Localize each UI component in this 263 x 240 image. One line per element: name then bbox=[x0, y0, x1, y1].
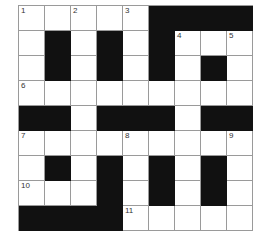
answer-cell[interactable]: 1 bbox=[19, 6, 45, 31]
block-cell bbox=[149, 31, 175, 56]
answer-cell[interactable] bbox=[227, 81, 253, 106]
block-cell bbox=[45, 56, 71, 81]
answer-cell[interactable] bbox=[175, 106, 201, 131]
answer-cell[interactable] bbox=[201, 31, 227, 56]
answer-cell[interactable] bbox=[71, 31, 97, 56]
answer-cell[interactable] bbox=[71, 131, 97, 156]
answer-cell[interactable]: 4 bbox=[175, 31, 201, 56]
answer-cell[interactable] bbox=[45, 181, 71, 206]
block-cell bbox=[201, 181, 227, 206]
answer-cell[interactable] bbox=[175, 56, 201, 81]
clue-number: 3 bbox=[125, 7, 129, 15]
answer-cell[interactable] bbox=[175, 131, 201, 156]
block-cell bbox=[149, 6, 175, 31]
answer-cell[interactable] bbox=[175, 156, 201, 181]
answer-cell[interactable] bbox=[97, 81, 123, 106]
answer-cell[interactable]: 6 bbox=[19, 81, 45, 106]
answer-cell[interactable] bbox=[123, 31, 149, 56]
block-cell bbox=[45, 31, 71, 56]
answer-cell[interactable]: 5 bbox=[227, 31, 253, 56]
answer-cell[interactable]: 2 bbox=[71, 6, 97, 31]
block-cell bbox=[97, 31, 123, 56]
answer-cell[interactable] bbox=[71, 56, 97, 81]
block-cell bbox=[97, 206, 123, 231]
block-cell bbox=[227, 106, 253, 131]
answer-cell[interactable] bbox=[19, 156, 45, 181]
clue-number: 6 bbox=[21, 82, 25, 90]
block-cell bbox=[97, 106, 123, 131]
answer-cell[interactable] bbox=[123, 56, 149, 81]
block-cell bbox=[97, 56, 123, 81]
answer-cell[interactable] bbox=[71, 156, 97, 181]
answer-cell[interactable] bbox=[97, 6, 123, 31]
answer-cell[interactable] bbox=[97, 131, 123, 156]
answer-cell[interactable]: 9 bbox=[227, 131, 253, 156]
answer-cell[interactable] bbox=[45, 81, 71, 106]
answer-cell[interactable] bbox=[19, 56, 45, 81]
answer-cell[interactable] bbox=[149, 206, 175, 231]
answer-cell[interactable]: 8 bbox=[123, 131, 149, 156]
answer-cell[interactable] bbox=[175, 181, 201, 206]
block-cell bbox=[71, 206, 97, 231]
clue-number: 5 bbox=[229, 32, 233, 40]
clue-number: 4 bbox=[177, 32, 181, 40]
answer-cell[interactable] bbox=[201, 131, 227, 156]
answer-cell[interactable] bbox=[45, 6, 71, 31]
block-cell bbox=[227, 6, 253, 31]
block-cell bbox=[123, 106, 149, 131]
answer-cell[interactable] bbox=[71, 106, 97, 131]
answer-cell[interactable] bbox=[19, 31, 45, 56]
clue-number: 11 bbox=[125, 207, 133, 215]
answer-cell[interactable] bbox=[227, 206, 253, 231]
block-cell bbox=[149, 106, 175, 131]
block-cell bbox=[201, 56, 227, 81]
clue-number: 1 bbox=[21, 7, 25, 15]
answer-cell[interactable] bbox=[227, 156, 253, 181]
block-cell bbox=[19, 206, 45, 231]
answer-cell[interactable] bbox=[71, 181, 97, 206]
answer-cell[interactable] bbox=[175, 81, 201, 106]
clue-number: 9 bbox=[229, 132, 233, 140]
crossword-grid: 1234567891011 bbox=[18, 5, 253, 231]
answer-cell[interactable] bbox=[227, 56, 253, 81]
answer-cell[interactable] bbox=[123, 181, 149, 206]
block-cell bbox=[149, 181, 175, 206]
answer-cell[interactable] bbox=[149, 81, 175, 106]
block-cell bbox=[45, 206, 71, 231]
block-cell bbox=[175, 6, 201, 31]
block-cell bbox=[149, 156, 175, 181]
block-cell bbox=[97, 181, 123, 206]
clue-number: 10 bbox=[21, 182, 30, 190]
block-cell bbox=[201, 6, 227, 31]
answer-cell[interactable] bbox=[149, 131, 175, 156]
block-cell bbox=[201, 106, 227, 131]
answer-cell[interactable] bbox=[45, 131, 71, 156]
block-cell bbox=[45, 156, 71, 181]
answer-cell[interactable] bbox=[123, 81, 149, 106]
answer-cell[interactable] bbox=[201, 81, 227, 106]
answer-cell[interactable] bbox=[123, 156, 149, 181]
block-cell bbox=[19, 106, 45, 131]
answer-cell[interactable] bbox=[175, 206, 201, 231]
answer-cell[interactable]: 7 bbox=[19, 131, 45, 156]
answer-cell[interactable] bbox=[227, 181, 253, 206]
answer-cell[interactable]: 3 bbox=[123, 6, 149, 31]
clue-number: 7 bbox=[21, 132, 25, 140]
answer-cell[interactable]: 11 bbox=[123, 206, 149, 231]
block-cell bbox=[149, 56, 175, 81]
clue-number: 2 bbox=[73, 7, 77, 15]
block-cell bbox=[45, 106, 71, 131]
block-cell bbox=[201, 156, 227, 181]
block-cell bbox=[97, 156, 123, 181]
clue-number: 8 bbox=[125, 132, 129, 140]
answer-cell[interactable] bbox=[71, 81, 97, 106]
answer-cell[interactable]: 10 bbox=[19, 181, 45, 206]
answer-cell[interactable] bbox=[201, 206, 227, 231]
